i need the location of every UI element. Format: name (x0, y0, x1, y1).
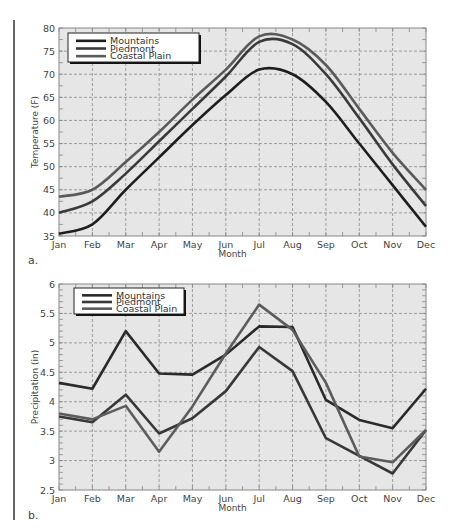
y-axis-title: Temperature (F) (30, 96, 40, 169)
x-tick-label: Jan (51, 239, 67, 250)
y-tick-label: 4 (49, 396, 55, 407)
y-axis-title: Precipitation (in) (30, 350, 40, 424)
legend: MountainsPiedmontCoastal Plain (74, 288, 186, 316)
x-tick-label: Feb (84, 239, 101, 250)
x-tick-label: May (183, 493, 203, 504)
x-tick-label: Jul (252, 493, 264, 504)
x-tick-label: Jul (252, 239, 264, 250)
chart-panel-precipitation: 2.533.544.555.56JanFebMarAprMayJunJulAug… (28, 279, 435, 523)
y-tick-label: 80 (43, 23, 55, 34)
y-tick-label: 60 (43, 115, 55, 126)
y-tick-label: 75 (43, 46, 55, 57)
x-tick-label: Dec (417, 493, 435, 504)
y-tick-label: 4.5 (40, 367, 55, 378)
x-tick-label: Mar (117, 239, 135, 250)
x-axis-title: Month (218, 249, 246, 259)
panel-label: a. (28, 254, 38, 267)
x-tick-label: Nov (383, 239, 402, 250)
y-tick-label: 5 (49, 337, 55, 348)
y-tick-label: 55 (43, 138, 55, 149)
x-tick-label: Dec (417, 239, 435, 250)
y-tick-label: 70 (43, 69, 55, 80)
y-tick-label: 50 (43, 161, 55, 172)
panel-label: b. (28, 509, 38, 522)
x-tick-label: Apr (151, 239, 168, 250)
y-tick-label: 40 (43, 207, 55, 218)
x-axis-title: Month (218, 503, 246, 513)
x-tick-label: Apr (151, 493, 168, 504)
x-tick-label: Feb (84, 493, 101, 504)
y-tick-label: 3 (49, 455, 55, 466)
x-tick-label: May (183, 239, 203, 250)
x-tick-label: Sep (317, 493, 335, 504)
y-tick-label: 3.5 (40, 426, 55, 437)
y-tick-label: 5.5 (40, 308, 55, 319)
x-tick-label: Nov (383, 493, 402, 504)
y-tick-label: 45 (43, 184, 55, 195)
legend-label: Coastal Plain (110, 50, 171, 61)
x-tick-label: Aug (283, 493, 302, 504)
x-tick-label: Oct (351, 239, 368, 250)
legend: MountainsPiedmontCoastal Plain (68, 33, 201, 64)
y-tick-label: 6 (49, 279, 55, 290)
y-tick-label: 65 (43, 92, 55, 103)
chart-panel-temperature: 35404550556065707580JanFebMarAprMayJunJu… (28, 23, 435, 268)
x-tick-label: Sep (317, 239, 335, 250)
x-tick-label: Oct (351, 493, 368, 504)
figure: 35404550556065707580JanFebMarAprMayJunJu… (0, 0, 452, 529)
x-tick-label: Jan (51, 493, 67, 504)
x-tick-label: Aug (283, 239, 302, 250)
x-tick-label: Mar (117, 493, 135, 504)
legend-label: Coastal Plain (116, 303, 177, 314)
